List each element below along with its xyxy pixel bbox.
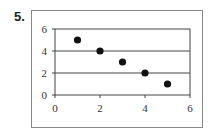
- x-tick-label: 6: [187, 102, 193, 114]
- data-point: [96, 47, 103, 54]
- y-tick-label: 2: [42, 67, 48, 79]
- data-point: [74, 36, 81, 43]
- scatter-chart: 02460246: [0, 0, 213, 138]
- x-tick-label: 2: [97, 102, 103, 114]
- x-tick-label: 0: [52, 102, 58, 114]
- y-tick-label: 0: [42, 89, 48, 101]
- data-point: [164, 80, 171, 87]
- x-tick-label: 4: [142, 102, 148, 114]
- data-point: [141, 69, 148, 76]
- y-tick-label: 4: [42, 45, 48, 57]
- data-point: [119, 58, 126, 65]
- y-tick-label: 6: [42, 23, 48, 35]
